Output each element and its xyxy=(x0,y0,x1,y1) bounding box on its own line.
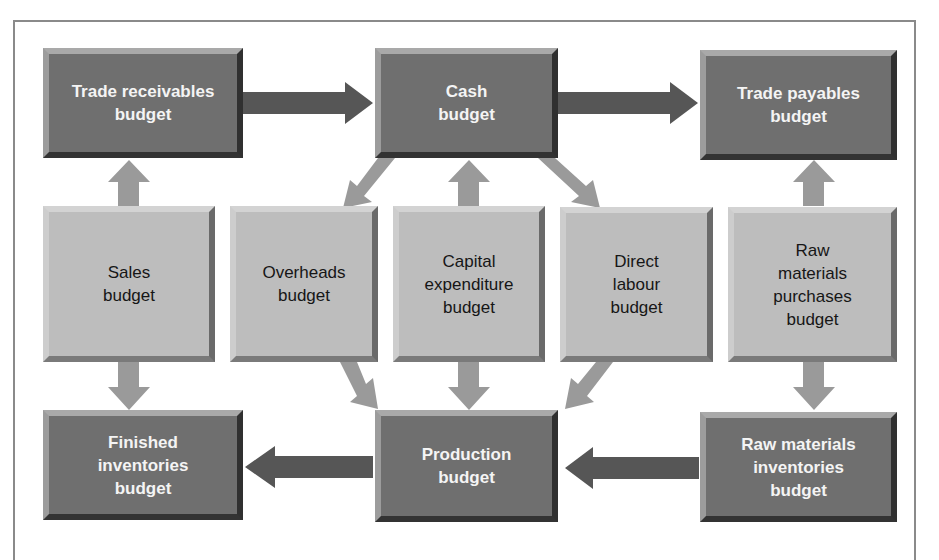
capital-expenditure-budget-label: Capital expenditure budget xyxy=(425,250,514,319)
trade-receivables-budget-label: Trade receivables budget xyxy=(72,80,215,126)
cash-budget-box: Cash budget xyxy=(375,48,558,158)
arrow-rawpurch-to-rawinv xyxy=(793,362,835,410)
finished-inventories-budget-box: Finished inventories budget xyxy=(43,410,243,520)
arrow-cash-to-labour xyxy=(538,158,600,208)
raw-materials-purchases-budget-label: Raw materials purchases budget xyxy=(773,239,851,331)
raw-materials-inventories-budget-label: Raw materials inventories budget xyxy=(741,433,855,502)
trade-payables-budget-label: Trade payables budget xyxy=(737,82,860,128)
arrow-sales-to-finished xyxy=(108,362,150,410)
sales-budget-box: Sales budget xyxy=(43,206,215,362)
arrow-capex-to-production xyxy=(448,362,490,410)
overheads-budget-label: Overheads budget xyxy=(262,261,345,307)
arrow-cash-to-overheads xyxy=(343,158,395,208)
arrow-rawpurch-to-payables xyxy=(793,160,835,206)
arrow-rawinv-to-production xyxy=(565,447,699,489)
finished-inventories-budget-label: Finished inventories budget xyxy=(98,431,189,500)
sales-budget-label: Sales budget xyxy=(103,261,155,307)
overheads-budget-box: Overheads budget xyxy=(230,206,378,362)
capital-expenditure-budget-box: Capital expenditure budget xyxy=(393,206,545,362)
trade-payables-budget-box: Trade payables budget xyxy=(700,50,897,160)
trade-receivables-budget-box: Trade receivables budget xyxy=(43,48,243,158)
arrow-production-to-finished xyxy=(245,446,373,488)
arrow-receivables-to-cash xyxy=(243,82,373,124)
arrow-labour-to-production xyxy=(565,362,613,409)
arrow-cash-to-payables xyxy=(558,82,698,124)
arrow-capex-to-cash xyxy=(448,160,490,206)
production-budget-label: Production budget xyxy=(422,443,512,489)
production-budget-box: Production budget xyxy=(375,410,558,522)
raw-materials-purchases-budget-box: Raw materials purchases budget xyxy=(728,207,897,362)
direct-labour-budget-box: Direct labour budget xyxy=(560,207,713,362)
arrow-sales-to-receivables xyxy=(108,160,150,206)
cash-budget-label: Cash budget xyxy=(438,80,495,126)
raw-materials-inventories-budget-box: Raw materials inventories budget xyxy=(700,412,897,522)
direct-labour-budget-label: Direct labour budget xyxy=(611,250,663,319)
arrow-overheads-to-production xyxy=(340,362,378,409)
